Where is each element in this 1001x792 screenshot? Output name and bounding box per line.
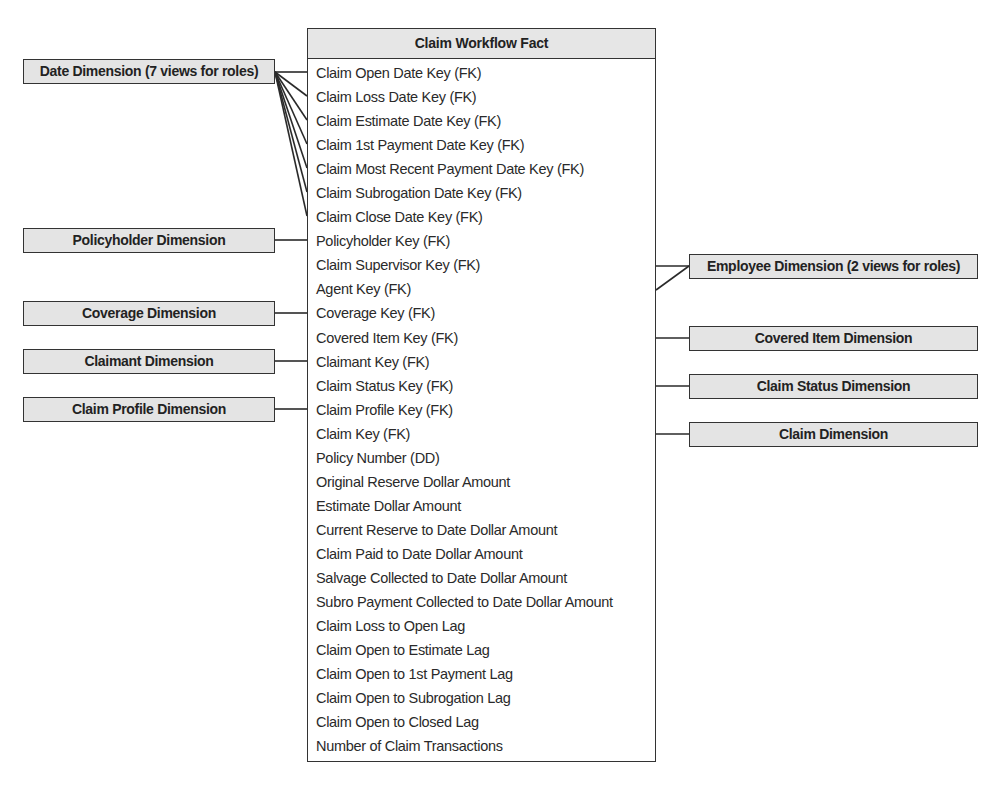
date-dimension-box: Date Dimension (7 views for roles) — [23, 59, 275, 84]
fact-row: Claim Loss to Open Lag — [308, 614, 655, 638]
fact-row: Claim 1st Payment Date Key (FK) — [308, 133, 655, 157]
connector-date-estimate — [275, 72, 307, 120]
fact-row: Current Reserve to Date Dollar Amount — [308, 518, 655, 542]
covered-item-dimension-box: Covered Item Dimension — [689, 326, 978, 351]
fact-row: Number of Claim Transactions — [308, 734, 655, 758]
connector-date-recent-payment — [275, 72, 307, 168]
claim-profile-dimension-label: Claim Profile Dimension — [72, 401, 226, 417]
fact-row: Claim Close Date Key (FK) — [308, 205, 655, 229]
fact-row: Claim Open to Subrogation Lag — [308, 686, 655, 710]
fact-table-title: Claim Workflow Fact — [308, 29, 655, 59]
policyholder-dimension-label: Policyholder Dimension — [73, 232, 226, 248]
fact-row: Claim Profile Key (FK) — [308, 398, 655, 422]
employee-dimension-label: Employee Dimension (2 views for roles) — [707, 258, 960, 274]
fact-row: Claim Open to Estimate Lag — [308, 638, 655, 662]
fact-row: Claim Most Recent Payment Date Key (FK) — [308, 157, 655, 181]
claimant-dimension-box: Claimant Dimension — [23, 349, 275, 374]
fact-row: Claim Paid to Date Dollar Amount — [308, 542, 655, 566]
fact-row: Agent Key (FK) — [308, 277, 655, 301]
claimant-dimension-label: Claimant Dimension — [84, 353, 213, 369]
claim-workflow-fact-table: Claim Workflow Fact Claim Open Date Key … — [307, 28, 656, 762]
employee-dimension-box: Employee Dimension (2 views for roles) — [689, 254, 978, 279]
claim-dimension-box: Claim Dimension — [689, 422, 978, 447]
fact-row: Subro Payment Collected to Date Dollar A… — [308, 590, 655, 614]
fact-row: Claim Loss Date Key (FK) — [308, 85, 655, 109]
fact-row: Claim Supervisor Key (FK) — [308, 253, 655, 277]
fact-row: Claim Open to 1st Payment Lag — [308, 662, 655, 686]
claim-dimension-label: Claim Dimension — [779, 426, 888, 442]
connector-employee-agent — [656, 266, 689, 290]
policyholder-dimension-box: Policyholder Dimension — [23, 228, 275, 253]
claim-status-dimension-label: Claim Status Dimension — [757, 378, 911, 394]
connector-date-1st-payment — [275, 72, 307, 144]
connector-date-close — [275, 72, 307, 216]
covered-item-dimension-label: Covered Item Dimension — [755, 330, 913, 346]
fact-table-rows: Claim Open Date Key (FK) Claim Loss Date… — [308, 59, 655, 758]
fact-row: Claim Open to Closed Lag — [308, 710, 655, 734]
connector-date-loss — [275, 72, 307, 96]
fact-row: Coverage Key (FK) — [308, 301, 655, 325]
fact-row: Salvage Collected to Date Dollar Amount — [308, 566, 655, 590]
fact-row: Claim Subrogation Date Key (FK) — [308, 181, 655, 205]
claim-status-dimension-box: Claim Status Dimension — [689, 374, 978, 399]
fact-row: Claim Status Key (FK) — [308, 374, 655, 398]
fact-row: Policy Number (DD) — [308, 446, 655, 470]
fact-row: Estimate Dollar Amount — [308, 494, 655, 518]
claim-profile-dimension-box: Claim Profile Dimension — [23, 397, 275, 422]
fact-row: Claim Key (FK) — [308, 422, 655, 446]
fact-row: Policyholder Key (FK) — [308, 229, 655, 253]
fact-row: Covered Item Key (FK) — [308, 326, 655, 350]
fact-row: Claim Estimate Date Key (FK) — [308, 109, 655, 133]
coverage-dimension-box: Coverage Dimension — [23, 301, 275, 326]
fact-row: Claim Open Date Key (FK) — [308, 61, 655, 85]
coverage-dimension-label: Coverage Dimension — [82, 305, 216, 321]
connector-date-subrogation — [275, 72, 307, 192]
fact-row: Claimant Key (FK) — [308, 350, 655, 374]
date-dimension-label: Date Dimension (7 views for roles) — [40, 63, 259, 79]
fact-row: Original Reserve Dollar Amount — [308, 470, 655, 494]
